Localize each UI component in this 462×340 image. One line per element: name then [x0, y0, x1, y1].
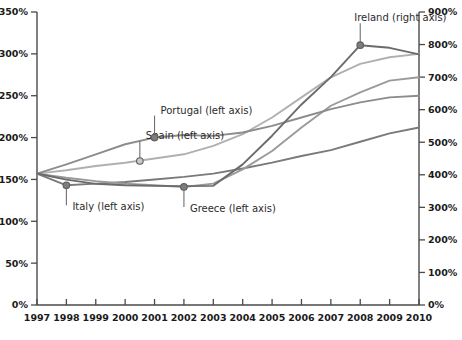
x-axis-tick-label: 2008	[347, 312, 374, 323]
left-axis-tick-label: 250%	[0, 90, 28, 101]
x-axis-tick-label: 1997	[24, 312, 50, 323]
right-axis-tick-label: 400%	[428, 169, 458, 180]
left-axis-tick-label: 350%	[0, 6, 28, 17]
line-chart: 0%50%100%150%200%250%300%350% 0%100%200%…	[0, 0, 462, 340]
marker-dot-ireland	[357, 42, 364, 49]
right-axis-tick-label: 0%	[428, 299, 445, 310]
marker-dot-spain	[137, 158, 144, 165]
left-axis-tick-label: 50%	[5, 258, 28, 269]
right-axis-tick-label: 600%	[428, 104, 458, 115]
left-axis-tick-label: 200%	[0, 132, 28, 143]
x-axis-tick-label: 2003	[200, 312, 226, 323]
callout-label-italy: Italy (left axis)	[72, 201, 144, 212]
right-axis-tick-label: 700%	[428, 72, 458, 83]
x-axis-tick-label: 2006	[288, 312, 315, 323]
left-axis-tick-label: 300%	[0, 48, 28, 59]
x-axis-tick-label: 2005	[259, 312, 285, 323]
callout-label-ireland: Ireland (right axis)	[354, 12, 446, 23]
left-axis-tick-label: 100%	[0, 216, 28, 227]
left-axis-tick-label: 0%	[12, 299, 29, 310]
x-axis-tick-label: 1998	[53, 312, 80, 323]
marker-dot-italy	[63, 182, 70, 189]
chart-container: 0%50%100%150%200%250%300%350% 0%100%200%…	[0, 0, 462, 340]
left-axis-tick-label: 150%	[0, 174, 28, 185]
x-axis-tick-label: 2007	[318, 312, 344, 323]
callout-label-greece: Greece (left axis)	[190, 203, 276, 214]
marker-dot-portugal	[151, 134, 158, 141]
callout-label-portugal: Portugal (left axis)	[161, 105, 253, 116]
x-axis-tick-label: 2009	[376, 312, 402, 323]
x-axis-tick-label: 1999	[83, 312, 109, 323]
right-axis-tick-label: 800%	[428, 39, 458, 50]
right-axis-tick-label: 300%	[428, 202, 458, 213]
right-axis-tick-label: 100%	[428, 267, 458, 278]
right-axis-tick-label: 500%	[428, 137, 458, 148]
x-axis-tick-label: 2002	[171, 312, 197, 323]
x-axis-tick-label: 2000	[112, 312, 139, 323]
x-axis-tick-label: 2010	[406, 312, 433, 323]
right-axis-tick-label: 200%	[428, 234, 458, 245]
x-axis-tick-label: 2001	[141, 312, 167, 323]
x-axis-tick-label: 2004	[229, 312, 256, 323]
marker-dot-greece	[181, 184, 188, 191]
